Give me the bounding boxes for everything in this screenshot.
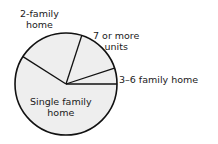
label-text: 7 or more [93, 30, 139, 41]
label-single-family: Single family home [30, 96, 92, 118]
label-text: units [93, 41, 139, 52]
label-text: 3–6 family home [119, 74, 198, 85]
label-three-six: 3–6 family home [119, 74, 198, 85]
label-seven-plus: 7 or more units [93, 30, 139, 52]
label-text: 2-family [20, 8, 59, 19]
label-text: home [20, 19, 59, 30]
label-text: home [30, 107, 92, 118]
label-text: Single family [30, 96, 92, 107]
label-two-family: 2-family home [20, 8, 59, 30]
